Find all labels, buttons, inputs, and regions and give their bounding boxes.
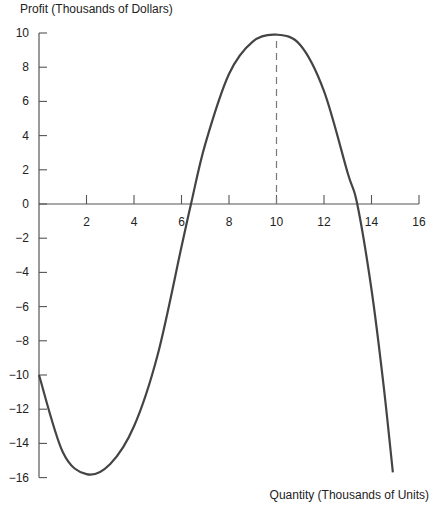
y-tick-label: 4 (22, 129, 29, 143)
svg-text:6: 6 (22, 94, 29, 108)
x-tick-label: 12 (317, 215, 331, 229)
svg-text:2: 2 (83, 215, 90, 229)
svg-text:−8: −8 (15, 334, 29, 348)
svg-text:10: 10 (16, 26, 30, 40)
svg-text:−10: −10 (9, 368, 30, 382)
y-tick-label: −14 (9, 436, 30, 450)
x-tick-label: 4 (131, 215, 138, 229)
svg-text:8: 8 (226, 215, 233, 229)
svg-text:2: 2 (22, 163, 29, 177)
x-tick-label: 16 (412, 215, 426, 229)
svg-text:−6: −6 (15, 300, 29, 314)
y-tick-label: −2 (15, 231, 29, 245)
y-tick-label: −8 (15, 334, 29, 348)
svg-text:0: 0 (22, 197, 29, 211)
y-tick-label: 10 (16, 26, 30, 40)
profit-chart: 1086420−2−4−6−8−10−12−14−16246810121416 (0, 0, 439, 505)
svg-text:−16: −16 (9, 471, 30, 485)
y-tick-label: −12 (9, 402, 30, 416)
x-tick-label: 6 (178, 215, 185, 229)
x-tick-label: 14 (365, 215, 379, 229)
profit-curve (39, 35, 393, 475)
svg-text:8: 8 (22, 60, 29, 74)
svg-text:−14: −14 (9, 436, 30, 450)
ticks: 1086420−2−4−6−8−10−12−14−16246810121416 (9, 26, 426, 485)
x-tick-label: 8 (226, 215, 233, 229)
y-tick-label: 2 (22, 163, 29, 177)
y-tick-label: −6 (15, 300, 29, 314)
y-tick-label: −4 (15, 265, 29, 279)
svg-text:−12: −12 (9, 402, 30, 416)
svg-text:4: 4 (131, 215, 138, 229)
svg-text:6: 6 (178, 215, 185, 229)
svg-text:−2: −2 (15, 231, 29, 245)
y-tick-label: 8 (22, 60, 29, 74)
y-tick-label: −16 (9, 471, 30, 485)
y-tick-label: 6 (22, 94, 29, 108)
svg-text:−4: −4 (15, 265, 29, 279)
svg-text:16: 16 (412, 215, 426, 229)
svg-text:12: 12 (317, 215, 331, 229)
svg-text:14: 14 (365, 215, 379, 229)
svg-text:10: 10 (270, 215, 284, 229)
y-tick-label: 0 (22, 197, 29, 211)
x-tick-label: 10 (270, 215, 284, 229)
y-tick-label: −10 (9, 368, 30, 382)
x-tick-label: 2 (83, 215, 90, 229)
axes (39, 33, 419, 478)
svg-text:4: 4 (22, 129, 29, 143)
